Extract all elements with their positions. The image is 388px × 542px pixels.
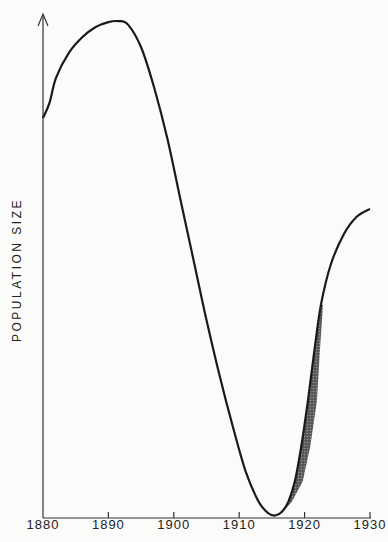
x-tick-label: 1890 bbox=[92, 517, 125, 532]
y-axis-label: POPULATION SIZE bbox=[10, 198, 24, 342]
uncertainty-band bbox=[269, 305, 323, 516]
x-tick-label: 1930 bbox=[354, 517, 387, 532]
x-tick-label: 1920 bbox=[288, 517, 321, 532]
population-curve bbox=[43, 21, 370, 516]
x-tick-label: 1900 bbox=[157, 517, 190, 532]
x-tick-label: 1880 bbox=[27, 517, 60, 532]
population-chart bbox=[0, 0, 388, 542]
x-tick-label: 1910 bbox=[223, 517, 256, 532]
